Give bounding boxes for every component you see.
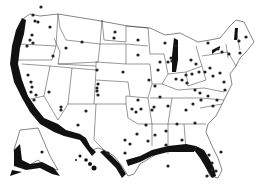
site-marker (31, 41, 34, 44)
site-marker (189, 58, 192, 61)
site-marker (227, 52, 230, 55)
site-marker (220, 50, 223, 53)
site-marker (180, 78, 183, 81)
site-marker (219, 150, 222, 153)
site-marker (207, 153, 210, 156)
site-marker (198, 91, 201, 94)
site-marker (218, 71, 221, 74)
site-marker (216, 47, 219, 50)
site-marker (156, 68, 159, 71)
site-marker (223, 88, 226, 91)
site-marker (76, 123, 79, 126)
site-marker (113, 30, 116, 33)
site-marker (30, 33, 33, 36)
site-marker (206, 41, 209, 44)
site-marker (211, 104, 214, 107)
site-marker (203, 70, 206, 73)
site-marker (31, 13, 34, 16)
site-marker (184, 108, 187, 111)
site-marker (32, 98, 35, 101)
site-marker (95, 89, 98, 92)
site-marker (185, 81, 188, 84)
site-marker (80, 40, 83, 43)
site-marker (166, 60, 169, 63)
site-marker (36, 20, 39, 23)
site-marker (206, 94, 209, 97)
site-marker (164, 129, 167, 132)
site-marker (222, 80, 225, 83)
site-marker (25, 44, 28, 47)
site-marker (164, 143, 167, 146)
site-marker (153, 133, 156, 136)
site-marker (174, 44, 177, 47)
site-marker (150, 108, 153, 111)
site-marker (214, 169, 217, 172)
site-marker (180, 138, 183, 141)
site-marker (40, 150, 43, 153)
site-marker (26, 73, 29, 76)
site-marker (128, 142, 131, 145)
site-marker (39, 5, 42, 8)
site-marker (48, 25, 51, 28)
site-marker (123, 138, 126, 141)
site-marker (153, 84, 156, 87)
hawaii (75, 155, 97, 171)
site-marker (158, 60, 161, 63)
site-marker (193, 121, 196, 124)
site-marker (244, 35, 247, 38)
site-marker (175, 122, 178, 125)
site-marker (28, 38, 31, 41)
site-marker (134, 110, 137, 113)
site-marker (170, 59, 173, 62)
site-marker (237, 39, 240, 42)
site-marker (84, 109, 87, 112)
site-marker (169, 56, 172, 59)
site-marker (29, 90, 32, 93)
site-marker (121, 70, 124, 73)
site-marker (166, 104, 169, 107)
site-marker (152, 105, 155, 108)
site-marker (147, 78, 150, 81)
site-marker (33, 19, 36, 22)
site-marker (211, 74, 214, 77)
site-marker (95, 68, 98, 71)
site-marker (210, 168, 213, 171)
site-marker (191, 102, 194, 105)
site-marker (136, 38, 139, 41)
alaska (10, 128, 60, 176)
site-marker (174, 77, 177, 80)
site-marker (47, 90, 50, 93)
site-marker (123, 151, 126, 154)
site-marker (146, 139, 149, 142)
site-marker (136, 98, 139, 101)
site-marker (59, 105, 62, 108)
contiguous-us-outline (14, 14, 254, 178)
site-marker (205, 174, 208, 177)
site-marker (139, 107, 142, 110)
site-marker (194, 62, 197, 65)
site-marker (112, 36, 115, 39)
site-marker (190, 72, 193, 75)
site-marker (184, 73, 187, 76)
site-marker (208, 66, 211, 69)
us-map (0, 0, 260, 184)
site-marker (30, 85, 33, 88)
site-marker (136, 53, 139, 56)
site-marker (199, 98, 202, 101)
site-marker (163, 41, 166, 44)
site-marker (95, 86, 98, 89)
site-marker (158, 95, 161, 98)
site-marker (64, 46, 67, 49)
site-marker (29, 80, 32, 83)
site-marker (51, 54, 54, 57)
site-marker (34, 93, 37, 96)
site-marker (197, 70, 200, 73)
site-marker (215, 98, 218, 101)
site-marker (135, 132, 138, 135)
site-marker (238, 51, 241, 54)
site-marker (193, 88, 196, 91)
site-marker (106, 151, 109, 154)
site-marker (96, 93, 99, 96)
site-marker (96, 82, 99, 85)
site-marker (130, 107, 133, 110)
